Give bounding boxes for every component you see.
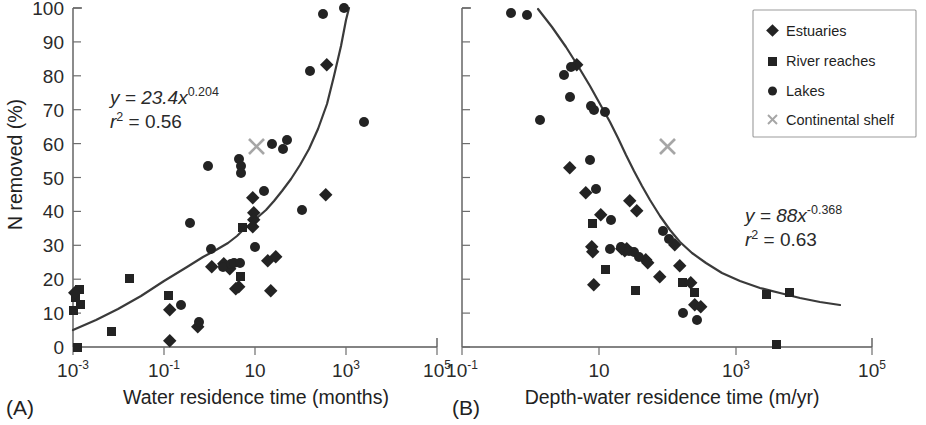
y-ticklabel: 90 — [43, 32, 64, 53]
panel-a-x-axis-title: Water residence time (months) — [123, 386, 389, 408]
panel-a-y-axis-title: N removed (%) — [4, 99, 26, 230]
panel-b-x-ticklabels: 10-1 10 103 105 — [446, 358, 886, 381]
legend[interactable]: Estuaries River reaches Lakes Continenta… — [753, 10, 916, 137]
legend-label: Lakes — [786, 83, 825, 99]
panel-b-estuaries — [563, 58, 707, 313]
x-ticklabel: 10-1 — [148, 358, 180, 381]
y-ticklabel: 100 — [32, 0, 64, 19]
panel-b-label: (B) — [452, 396, 480, 419]
panel-b-y-ticks — [462, 8, 470, 347]
figure-container: 0 10 20 30 40 50 60 70 80 90 100 10-3 10… — [0, 0, 926, 425]
circle-icon — [768, 87, 777, 96]
y-ticklabel: 20 — [43, 269, 64, 290]
y-ticklabel: 40 — [43, 201, 64, 222]
panel-b-datapoints — [506, 8, 794, 349]
y-ticklabel: 30 — [43, 235, 64, 256]
panel-a-r2: r2 = 0.56 — [110, 110, 182, 132]
panel-a-label: (A) — [6, 396, 34, 419]
y-ticklabel: 80 — [43, 66, 64, 87]
legend-item-continental-shelf[interactable]: Continental shelf — [768, 112, 895, 128]
panel-a-continental-shelf — [249, 139, 264, 154]
legend-label: River reaches — [786, 53, 875, 69]
panel-b-r2: r2 = 0.63 — [745, 228, 817, 250]
x-ticklabel: 10 — [244, 360, 265, 381]
y-ticklabel: 0 — [53, 337, 64, 358]
panel-b-x-ticks — [462, 347, 872, 355]
panel-b-equation: y = 88x-0.368 — [743, 203, 842, 226]
y-ticklabel: 50 — [43, 168, 64, 189]
y-ticklabel: 60 — [43, 134, 64, 155]
x-ticklabel: 10-3 — [57, 358, 89, 381]
y-ticklabel: 10 — [43, 303, 64, 324]
panel-a-estuaries — [68, 58, 333, 347]
panel-b-lakes — [506, 8, 702, 325]
x-ticklabel: 105 — [858, 358, 886, 381]
panel-b-x-axis-title: Depth-water residence time (m/yr) — [525, 386, 820, 408]
x-ticklabel: 103 — [332, 358, 360, 381]
panel-a-river-reaches — [69, 223, 247, 352]
legend-label: Estuaries — [786, 23, 846, 39]
panel-b-continental-shelf — [660, 139, 675, 154]
x-ticklabel: 103 — [722, 358, 750, 381]
panel-a-x-ticks — [73, 347, 437, 355]
square-icon — [768, 57, 777, 66]
y-ticklabel: 70 — [43, 100, 64, 121]
panel-a-datapoints — [68, 3, 369, 352]
x-ticklabel: 10-1 — [446, 358, 478, 381]
legend-label: Continental shelf — [786, 112, 895, 128]
chart-svg: 0 10 20 30 40 50 60 70 80 90 100 10-3 10… — [0, 0, 926, 425]
panel-a-y-ticklabels: 0 10 20 30 40 50 60 70 80 90 100 — [32, 0, 64, 358]
x-ticklabel: 10 — [588, 360, 609, 381]
panel-a-equation: y = 23.4x0.204 — [108, 85, 219, 108]
panel-a: 0 10 20 30 40 50 60 70 80 90 100 10-3 10… — [4, 0, 451, 419]
panel-a-x-ticklabels: 10-3 10-1 10 103 105 — [57, 358, 451, 381]
